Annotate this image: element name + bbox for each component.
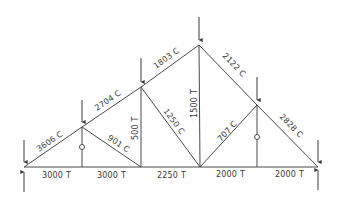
label-bot-3: 2250 T <box>157 171 186 180</box>
label-bot-5: 2000 T <box>275 170 304 179</box>
label-vert-3: 1500 T <box>190 89 199 118</box>
label-bot-4: 2000 T <box>216 170 245 179</box>
label-vert-2: 500 T <box>131 116 140 140</box>
label-top-3: 1803 C <box>152 46 181 71</box>
label-bot-1: 3000 T <box>42 171 71 180</box>
label-top-4: 2122 C <box>221 51 248 79</box>
load-arrows <box>24 17 318 162</box>
zero-force-marker-2 <box>255 135 260 140</box>
member-vert-3 <box>199 45 200 167</box>
label-bot-2: 3000 T <box>97 171 126 180</box>
label-top-5: 2828 C <box>278 112 305 140</box>
zero-force-marker-1 <box>80 145 85 150</box>
label-diag-3: 707 C <box>216 119 239 143</box>
truss-diagram: 3606 C 2704 C 1803 C 2122 C 2828 C 3000 … <box>0 0 340 205</box>
top-chord <box>24 45 318 167</box>
